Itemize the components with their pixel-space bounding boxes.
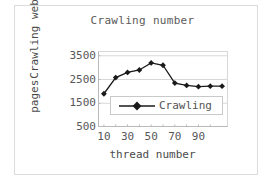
x-axis-title: thread number	[70, 148, 235, 161]
x-axis-tick-label: 90	[186, 130, 210, 143]
y-axis-tick-label: 3500	[54, 49, 96, 62]
y-axis-tick-label: 2500	[54, 73, 96, 86]
data-point-marker	[184, 83, 190, 89]
x-axis-tick-label: 10	[92, 130, 116, 143]
y-axis-tick-label: 1500	[54, 96, 96, 109]
data-point-marker	[148, 60, 154, 66]
x-axis-tick-label: 50	[139, 130, 163, 143]
x-axis-tick-label: 70	[163, 130, 187, 143]
data-point-marker	[207, 83, 213, 89]
data-point-marker	[219, 83, 225, 89]
x-axis-tick-label: 30	[116, 130, 140, 143]
y-axis-tick-label: 500	[54, 120, 96, 133]
plot-region	[98, 51, 228, 127]
chart-legend: Crawling	[110, 96, 223, 115]
legend-marker-icon	[119, 101, 155, 111]
data-point-marker	[136, 67, 142, 73]
data-point-marker	[196, 84, 202, 90]
chart-figure: Crawling number Crawling web pages 50015…	[0, 0, 273, 189]
series-canvas	[98, 51, 228, 127]
y-axis-tick-labels: 500150025003500	[52, 51, 96, 127]
data-point-marker	[125, 69, 131, 75]
x-axis-tick-labels: 1030507090	[98, 130, 228, 146]
chart-title: Crawling number	[60, 14, 225, 27]
legend-entry-label: Crawling	[159, 99, 212, 112]
